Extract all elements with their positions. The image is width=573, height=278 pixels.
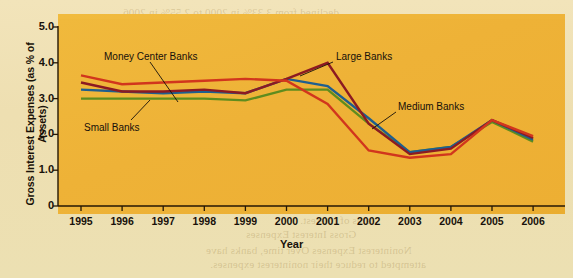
x-tick-label: 2000 — [265, 215, 309, 227]
x-tick-label: 1999 — [223, 215, 267, 227]
x-tick-label: 1997 — [141, 215, 185, 227]
series-label-money-center-banks: Money Center Banks — [104, 51, 197, 62]
y-axis-title: Gross Interest Expenses (as % of Assets) — [24, 24, 48, 224]
x-tick-label: 2004 — [429, 215, 473, 227]
figure-page: declined from 3.33% in 2000 to 2.55% in … — [0, 0, 573, 278]
x-axis-title: Year — [280, 238, 303, 250]
series-line-money-center-banks — [81, 75, 533, 157]
chart-svg — [0, 0, 573, 278]
x-tick-label: 1998 — [182, 215, 226, 227]
x-tick-label: 2006 — [511, 215, 555, 227]
series-label-medium-banks: Medium Banks — [398, 101, 464, 112]
annotation-leader-line — [372, 112, 396, 129]
x-tick-label: 2005 — [470, 215, 514, 227]
annotation-leader-line — [300, 62, 333, 76]
annotation-leader-line — [131, 100, 150, 120]
x-tick-label: 2003 — [388, 215, 432, 227]
x-tick-label: 1996 — [100, 215, 144, 227]
series-line-large-banks — [81, 63, 533, 154]
series-label-large-banks: Large Banks — [336, 51, 392, 62]
x-tick-label: 2002 — [347, 215, 391, 227]
x-tick-label: 1995 — [59, 215, 103, 227]
x-tick-label: 2001 — [306, 215, 350, 227]
series-label-small-banks: Small Banks — [84, 122, 140, 133]
